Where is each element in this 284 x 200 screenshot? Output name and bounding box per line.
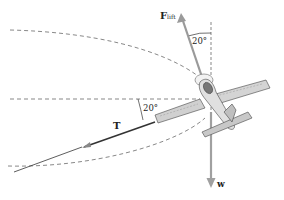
lift-subscript: lift [167,13,175,20]
lift-arrowhead [177,13,186,23]
weight-arrowhead [207,178,216,188]
weight-label: w [217,180,225,189]
lower-dashed-path [8,118,205,166]
tension-line-extension [14,147,82,172]
left-wing [155,99,205,123]
airplane [155,74,270,137]
tension-arrowhead [82,142,91,148]
upper-dashed-path [10,30,198,76]
banked-plane-diagram [0,0,284,200]
lift-force-label: Flift [160,11,176,21]
angle-label-top: 20° [192,37,207,46]
tension-label: T [113,121,120,131]
lift-vector [182,18,203,80]
angle-label-left: 20° [143,104,158,113]
